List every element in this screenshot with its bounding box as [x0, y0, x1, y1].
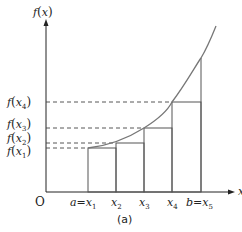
rect-4: [172, 102, 201, 192]
rect-2: [116, 143, 144, 192]
origin-label: O: [35, 195, 45, 209]
figure-caption: (a): [117, 213, 132, 226]
y-tick-f-x1: f(x1): [6, 144, 31, 160]
y-axis-arrow-icon: [44, 19, 49, 26]
x-tick-x2: x2: [111, 196, 122, 211]
y-axis-label: f(x): [32, 5, 53, 19]
x-tick-x4: x4: [167, 196, 178, 211]
x-axis-arrow-icon: [228, 190, 235, 195]
x-tick-x5: b=x5: [186, 196, 213, 211]
riemann-sum-diagram: f(x) f(x4) f(x3) f(x2) f(x1) O a=x1 x2 x…: [0, 0, 242, 232]
rect-1: [88, 148, 116, 192]
y-tick-f-x4: f(x4): [6, 95, 31, 111]
function-curve: [88, 26, 216, 148]
x-tick-x1: a=x1: [70, 196, 96, 211]
rect-3: [144, 128, 172, 192]
x-axis-label: x: [238, 185, 242, 198]
dashed-guides: [46, 102, 172, 148]
x-tick-x3: x3: [139, 196, 150, 211]
riemann-rectangles: [88, 58, 201, 192]
